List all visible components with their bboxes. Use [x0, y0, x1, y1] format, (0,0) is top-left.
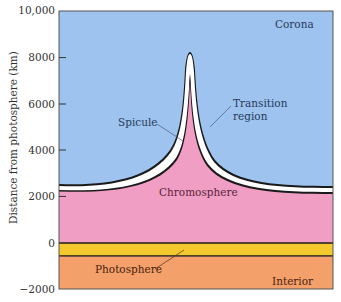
- transition-region-label-line1: Transition: [233, 97, 287, 109]
- y-tick-label: 0: [5, 237, 55, 249]
- photosphere-label: Photosphere: [95, 263, 162, 275]
- transition-region-label-line2: region: [233, 110, 267, 122]
- interior-label: Interior: [272, 275, 313, 287]
- y-tick-label: −2000: [5, 283, 55, 295]
- corona-label: Corona: [275, 18, 314, 30]
- y-axis-title: Distance from photosphere (km): [7, 74, 19, 224]
- solar-atmosphere-diagram: 10,000 8000 6000 4000 2000 0 −2000 Dista…: [0, 0, 341, 302]
- spicule-label: Spicule: [118, 116, 158, 128]
- photosphere-region: [59, 243, 333, 256]
- chromosphere-label: Chromosphere: [159, 186, 238, 198]
- y-tick-label: 10,000: [5, 4, 55, 16]
